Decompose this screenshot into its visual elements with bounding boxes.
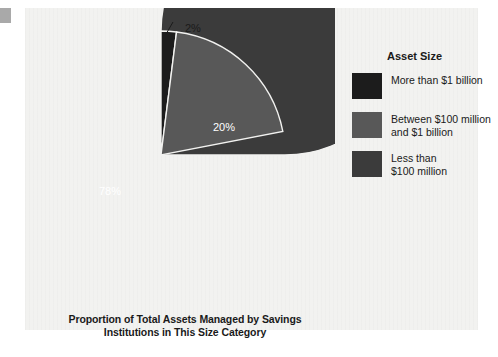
figure-panel: 20% 78% 2% Proportion of Total Assets Ma… [25, 8, 478, 330]
legend-label-more-than-1-billion: More than $1 billion [391, 73, 483, 87]
legend-label-line-2: and $1 billion [391, 126, 491, 139]
legend-label-line-1: Less than [391, 152, 447, 165]
legend-swatch-between-100m-and-1b [352, 112, 382, 138]
scan-corner-artifact [0, 8, 11, 23]
legend-label-line-2: $100 million [391, 165, 447, 178]
legend-item-more-than-1-billion: More than $1 billion [352, 73, 498, 99]
pie-label-2-percent: 2% [185, 22, 201, 34]
pie-label-20-percent: 20% [213, 121, 235, 133]
pie-chart: 20% 78% 2% [25, 8, 335, 298]
legend-label-between-100m-and-1b: Between $100 million and $1 billion [391, 112, 491, 138]
legend-label-less-than-100-million: Less than $100 million [391, 151, 447, 177]
legend-title: Asset Size [387, 50, 498, 62]
pie-label-78-percent: 78% [99, 185, 121, 197]
legend-item-between-100m-and-1b: Between $100 million and $1 billion [352, 112, 498, 138]
pie-chart-svg [25, 8, 335, 298]
chart-caption: Proportion of Total Assets Managed by Sa… [55, 313, 315, 339]
legend-label-line-1: More than $1 billion [391, 74, 483, 87]
chart-legend: Asset Size More than $1 billion Between … [352, 50, 498, 190]
legend-label-line-1: Between $100 million [391, 113, 491, 126]
legend-item-less-than-100-million: Less than $100 million [352, 151, 498, 177]
legend-swatch-less-than-100-million [352, 151, 382, 177]
chart-caption-line-1: Proportion of Total Assets Managed by [69, 313, 260, 325]
legend-swatch-more-than-1-billion [352, 73, 382, 99]
